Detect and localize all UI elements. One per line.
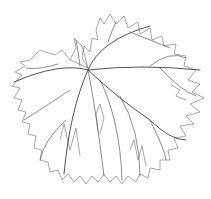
leaf-midrib: [88, 67, 200, 70]
leaf-lobe-outline: [170, 84, 186, 100]
leaf-vein: [100, 80, 122, 180]
leaf-drawing-icon: [0, 0, 211, 199]
leaf-vein: [150, 55, 186, 66]
leaf-midrib: [88, 26, 150, 70]
leaf-vein: [108, 22, 116, 42]
leaf-vein: [76, 40, 80, 66]
leaf-vein: [150, 120, 166, 160]
leaf-vein: [26, 64, 58, 69]
leaf-vein: [120, 96, 140, 176]
leaf-lobe-outline: [130, 140, 146, 166]
leaf-illustration: [0, 0, 211, 199]
leaf-vein: [88, 70, 104, 176]
leaf-vein: [40, 120, 66, 160]
leaf-midrib: [14, 68, 88, 82]
leaf-vein: [130, 32, 170, 48]
leaf-lobe-outline: [96, 104, 104, 134]
leaf-midrib: [88, 70, 186, 140]
leaf-vein: [24, 90, 70, 120]
leaf-vein: [160, 68, 196, 96]
leaf-midrib: [64, 70, 88, 174]
